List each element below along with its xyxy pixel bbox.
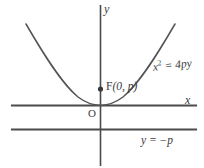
focus-point-marker bbox=[98, 86, 103, 91]
focus-label: F(0, p) bbox=[106, 81, 137, 93]
directrix-label: y = −p bbox=[141, 135, 173, 147]
parabola-figure: y x O F(0, p) x2 = 4py y = −p bbox=[0, 0, 204, 168]
equation-remainder: = 4py bbox=[161, 57, 192, 72]
y-axis-label: y bbox=[104, 3, 109, 15]
focus-coordinates: (0, p) bbox=[112, 80, 137, 92]
origin-label: O bbox=[88, 108, 96, 119]
parabola-diagram-svg bbox=[0, 0, 204, 168]
x-axis-label: x bbox=[185, 94, 190, 106]
